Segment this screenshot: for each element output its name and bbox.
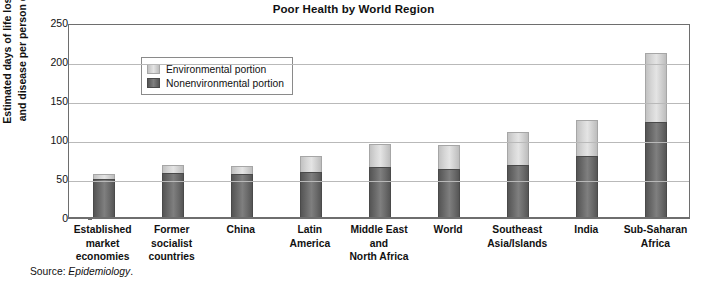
bar-slot (555, 25, 619, 218)
bar-slot (624, 25, 688, 218)
bar-slot (279, 25, 343, 218)
x-axis-labels: EstablishedmarketeconomiesFormersocialis… (68, 223, 690, 271)
bar-slot (141, 25, 205, 218)
chart-title: Poor Health by World Region (0, 3, 707, 15)
bar-china[interactable] (231, 166, 253, 218)
bar-segment-environmental (369, 144, 391, 167)
bar-slot (486, 25, 550, 218)
x-axis-baseline (69, 217, 689, 218)
bar-segment-nonenvironmental (369, 167, 391, 218)
x-axis-label-sub-saharan-africa: Sub-SaharanAfrica (613, 223, 697, 250)
plot-area: Environmental portion Nonenvironmental p… (68, 24, 690, 219)
y-axis-title-line-1: Estimated days of life lost to death (0, 0, 15, 137)
y-axis-tick-50: 50 (32, 173, 68, 185)
bar-segment-environmental (231, 166, 253, 174)
legend-swatch-environmental-icon (147, 64, 160, 74)
bar-slot (348, 25, 412, 218)
bar-slot (210, 25, 274, 218)
bar-former-socialist-countries[interactable] (162, 165, 184, 218)
x-axis-label-line: Asia/Islands (475, 237, 559, 251)
y-axis-tick-150: 150 (32, 95, 68, 107)
gridline (69, 181, 689, 182)
y-axis-tick-100: 100 (32, 134, 68, 146)
legend: Environmental portion Nonenvironmental p… (141, 57, 293, 95)
bar-segment-nonenvironmental (162, 173, 184, 218)
legend-swatch-nonenvironmental-icon (147, 78, 160, 88)
y-axis: 250200150100500 (24, 24, 68, 219)
source-note: Source: Epidemiology. (30, 266, 133, 277)
bar-segment-environmental (162, 165, 184, 173)
bar-segment-nonenvironmental (507, 165, 529, 218)
bar-slot (417, 25, 481, 218)
x-axis-label-line: countries (130, 250, 214, 264)
gridline (69, 64, 689, 65)
bar-slot (72, 25, 136, 218)
bars-container (69, 25, 689, 218)
y-axis-tick-mark (88, 219, 92, 220)
bar-segment-environmental (438, 145, 460, 169)
bar-segment-nonenvironmental (300, 172, 322, 218)
y-axis-tick-200: 200 (32, 56, 68, 68)
bar-southeast-asia-islands[interactable] (507, 132, 529, 218)
x-axis-label-line: North Africa (337, 250, 421, 264)
gridline (69, 142, 689, 143)
x-axis-label-line: socialist (130, 237, 214, 251)
chart-root: Poor Health by World Region Estimated da… (0, 0, 707, 286)
bar-segment-environmental (576, 120, 598, 156)
x-axis-label-line: Africa (613, 237, 697, 251)
bar-latin-america[interactable] (300, 156, 322, 218)
y-axis-tick-250: 250 (32, 17, 68, 29)
bar-segment-nonenvironmental (576, 156, 598, 218)
legend-label-environmental: Environmental portion (166, 64, 266, 75)
bar-sub-saharan-africa[interactable] (645, 53, 667, 218)
legend-item-nonenvironmental: Nonenvironmental portion (147, 76, 284, 90)
source-publication: Epidemiology (68, 266, 130, 277)
source-suffix: . (130, 266, 133, 277)
bar-segment-environmental (300, 156, 322, 172)
bar-segment-nonenvironmental (93, 179, 115, 218)
bar-segment-nonenvironmental (645, 122, 667, 218)
bar-segment-environmental (507, 132, 529, 165)
x-axis-label-line: Sub-Saharan (613, 223, 697, 237)
bar-segment-nonenvironmental (438, 169, 460, 218)
bar-india[interactable] (576, 120, 598, 218)
legend-label-nonenvironmental: Nonenvironmental portion (166, 78, 284, 89)
x-axis-label-line: and (337, 237, 421, 251)
gridline (69, 103, 689, 104)
source-prefix: Source: (30, 266, 68, 277)
